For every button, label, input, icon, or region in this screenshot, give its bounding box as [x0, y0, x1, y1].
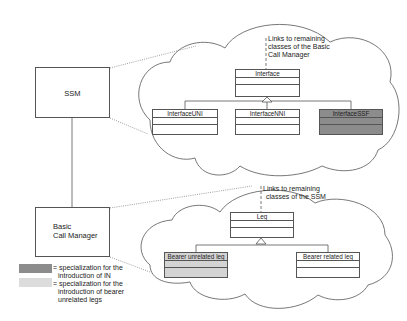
- bottom-note-line1: Links to remaining: [263, 185, 320, 193]
- class-attributes: [231, 221, 293, 228]
- legend-bearer-line1: = specialization for the: [53, 280, 123, 288]
- class-bearer-related-leg: Bearer related leg: [296, 252, 360, 278]
- bcm-label-line2: Call Manager: [53, 232, 98, 240]
- class-leg-name: Leg: [231, 213, 293, 221]
- class-interface-ssf: InterfaceSSF: [319, 109, 383, 135]
- class-interface-uni: InterfaceUNI: [152, 109, 218, 135]
- class-interface-ssf-name: InterfaceSSF: [320, 110, 382, 118]
- legend-swatch-in: [19, 264, 52, 273]
- legend-swatch-bearer-unrelated: [19, 278, 52, 287]
- class-bearer-unrelated-leg: Bearer unrelated leg: [164, 252, 228, 278]
- class-attributes: [236, 118, 299, 125]
- legend-in-line2: introduction of IN: [58, 272, 111, 280]
- legend-in-line1: = specialization for the: [53, 264, 123, 272]
- top-note-line2: classes of the Basic: [268, 43, 330, 51]
- legend-bearer-line3: unrelated legs: [58, 296, 102, 304]
- ssm-label: SSM: [36, 88, 109, 97]
- class-interface-uni-name: InterfaceUNI: [153, 110, 217, 118]
- top-note-line3: Call Manager: [268, 51, 310, 59]
- class-bearer-unrelated-leg-name: Bearer unrelated leg: [165, 253, 227, 261]
- ssm-box: SSM: [35, 67, 110, 118]
- bcm-label-line1: Basic: [53, 223, 71, 231]
- class-interface: Interface: [235, 69, 300, 97]
- class-attributes: [297, 261, 359, 268]
- legend-bearer-line2: introduction of bearer: [58, 288, 124, 296]
- class-attributes: [236, 78, 299, 85]
- class-leg: Leg: [230, 212, 294, 238]
- class-attributes: [165, 261, 227, 268]
- class-interface-name: Interface: [236, 70, 299, 78]
- bottom-note-line2: classes of the SSM: [266, 193, 326, 201]
- class-attributes: [153, 118, 217, 125]
- top-note-line1: Links to remaining: [268, 35, 325, 43]
- basic-call-manager-box: Basic Call Manager: [35, 207, 110, 257]
- bottom-cloud-outline: [141, 190, 392, 308]
- class-interface-nni: InterfaceNNI: [235, 109, 300, 135]
- class-bearer-related-leg-name: Bearer related leg: [297, 253, 359, 261]
- class-attributes: [320, 118, 382, 125]
- class-interface-nni-name: InterfaceNNI: [236, 110, 299, 118]
